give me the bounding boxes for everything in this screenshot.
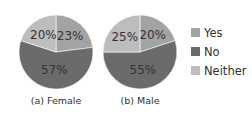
legend-label-yes: Yes <box>203 26 223 40</box>
caption-male: (b) Male <box>121 95 160 106</box>
pie-label-no: 57% <box>41 63 68 77</box>
pie-label-yes: 20% <box>139 28 166 42</box>
legend-swatch-yes <box>191 28 200 37</box>
legend-label-neither: Neither <box>204 64 247 78</box>
legend-label-no: No <box>204 45 220 59</box>
legend: Yes No Neither <box>191 26 247 78</box>
pie-label-yes: 23% <box>57 29 84 43</box>
pie-label-no: 55% <box>130 63 157 77</box>
legend-swatch-neither <box>191 66 200 75</box>
pie-label-neither: 20% <box>30 28 57 42</box>
legend-swatch-no <box>191 47 200 56</box>
pie-female: 23%57%20% <box>19 15 93 89</box>
pie-male: 20%55%25% <box>103 15 177 89</box>
caption-female: (a) Female <box>31 95 82 106</box>
pie-charts: 23%57%20% (a) Female 20%55%25% (b) Male … <box>0 0 252 119</box>
pie-label-neither: 25% <box>111 30 138 44</box>
